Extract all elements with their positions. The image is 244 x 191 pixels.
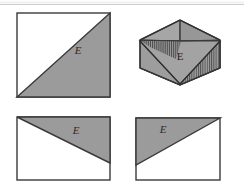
panel-top-left: E	[17, 13, 110, 97]
panel-bottom-left: E	[17, 117, 110, 180]
panel-top-right-label: E	[177, 50, 184, 62]
geometry-figure-svg: E	[0, 0, 244, 191]
panel-bottom-right-label: E	[159, 123, 167, 135]
panel-bottom-right: E	[136, 118, 220, 180]
panel-bottom-left-label: E	[72, 124, 80, 136]
geometry-figure-root: E	[0, 0, 244, 191]
panel-top-left-label: E	[74, 44, 82, 56]
